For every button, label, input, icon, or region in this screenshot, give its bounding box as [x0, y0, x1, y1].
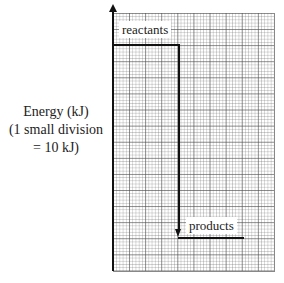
y-axis-label-line1: Energy (kJ)	[0, 103, 112, 121]
reactants-level-line	[113, 44, 179, 46]
products-label: products	[186, 217, 237, 234]
arrow-down-icon	[175, 229, 181, 237]
y-axis-label-line3: = 10 kJ)	[0, 139, 112, 157]
energy-axis	[112, 6, 114, 271]
reactants-label: reactants	[119, 21, 171, 38]
y-axis-label: Energy (kJ) (1 small division = 10 kJ)	[0, 103, 112, 157]
axis-arrow-up-icon	[109, 4, 117, 12]
products-level-line	[178, 237, 244, 239]
energy-change-arrow	[178, 44, 180, 231]
y-axis-label-line2: (1 small division	[0, 121, 112, 139]
